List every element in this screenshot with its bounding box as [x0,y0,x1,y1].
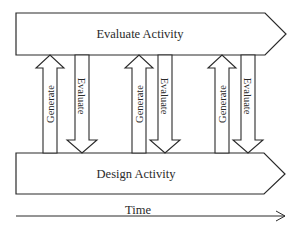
evaluate-design-diagram: Evaluate Activity Design Activity Genera… [0,0,300,233]
evaluate-label-2: Evaluate [159,78,170,115]
design-activity-label: Design Activity [97,167,177,181]
generate-label-3: Generate [217,85,228,123]
evaluate-arrow-1: Evaluate [67,55,97,153]
generate-arrow-2: Generate [125,55,153,153]
generate-arrow-3: Generate [208,55,236,153]
evaluate-label-3: Evaluate [242,78,253,115]
design-activity-box: Design Activity [16,153,285,194]
generate-label-2: Generate [134,85,145,123]
time-label: Time [125,203,151,217]
generate-label-1: Generate [45,85,56,123]
time-axis: Time [16,203,285,221]
generate-arrow-1: Generate [36,55,64,153]
evaluate-activity-box: Evaluate Activity [16,13,286,55]
evaluate-arrow-2: Evaluate [150,55,180,153]
evaluate-arrow-3: Evaluate [233,55,263,153]
evaluate-activity-label: Evaluate Activity [96,27,184,41]
evaluate-label-1: Evaluate [76,78,87,115]
